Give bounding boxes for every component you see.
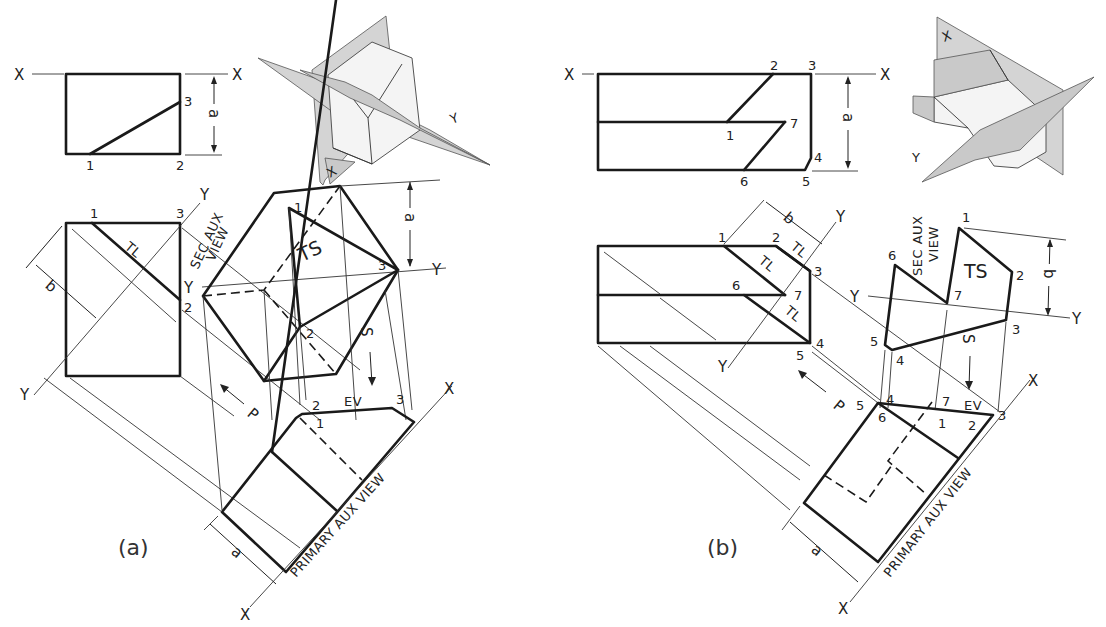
fold-label-y-bottom: Y xyxy=(19,386,30,404)
point-label: 6 xyxy=(878,410,887,425)
direction-label-s: S xyxy=(959,334,977,344)
point-label: 2 xyxy=(176,158,185,173)
pictorial-label-y: Y xyxy=(911,150,920,165)
point-label: 7 xyxy=(954,288,963,303)
point-label: 5 xyxy=(796,348,805,363)
panel-b: Y X X X 2 3 1 7 4 6 5 a xyxy=(564,17,1094,618)
fold-label-x-left: X xyxy=(564,66,574,84)
point-label: 2 xyxy=(772,230,781,245)
point-label: 2 xyxy=(1016,268,1025,283)
fold-label-y-bottom: Y xyxy=(717,358,728,376)
fold-label-y-top: Y xyxy=(199,186,210,204)
point-label: 6 xyxy=(888,248,897,263)
dimension-label-a: a xyxy=(205,109,223,118)
point-label: 1 xyxy=(294,200,303,215)
front-edge-1-3 xyxy=(90,102,180,154)
annotation-tl: TL xyxy=(121,238,144,261)
sec-aux-view-b: SEC AUX VIEW Y Y TS 1 2 3 4 5 6 7 b xyxy=(849,210,1082,412)
fold-label-y-sec-left: Y xyxy=(183,279,194,297)
dimension-label-a: a xyxy=(839,113,857,122)
top-edge-1-2-TL xyxy=(92,223,180,300)
fold-label-y-sec-left: Y xyxy=(849,288,860,306)
point-label: 4 xyxy=(816,336,825,351)
point-label: 2 xyxy=(312,398,321,413)
view-label-primary-aux: PRIMARY AUX VIEW xyxy=(881,465,976,580)
dimension-label-a: a xyxy=(228,542,247,562)
point-label: 2 xyxy=(770,58,779,73)
dimension-label-b: b xyxy=(42,276,61,296)
fold-label-x-left: X xyxy=(14,66,24,84)
fold-label-y-sec-right: Y xyxy=(1071,310,1082,328)
point-label: 4 xyxy=(814,150,823,165)
point-label: 1 xyxy=(962,210,971,225)
point-label: 5 xyxy=(802,174,811,189)
point-label: 1 xyxy=(86,158,95,173)
point-label: 2 xyxy=(968,418,977,433)
dimension-label-b: b xyxy=(780,208,799,228)
fold-label-x-aux-top: X xyxy=(444,380,454,398)
point-label: 1 xyxy=(316,416,325,431)
annotation-tl: TL xyxy=(755,252,778,275)
fold-label-x-right: X xyxy=(232,66,242,84)
front-view-outline xyxy=(66,74,180,154)
pictorial-a: Y X xyxy=(258,16,490,185)
annotation-ts: TS xyxy=(963,260,988,282)
fold-line-y xyxy=(34,203,200,395)
sec-aux-view-a: SEC AUX VIEW Y Y 1 3 2 TS a xyxy=(183,180,446,510)
fold-label-x-aux-bottom: X xyxy=(838,600,848,618)
annotation-ev: EV xyxy=(964,398,982,413)
point-label: 7 xyxy=(942,394,951,409)
point-label: 1 xyxy=(726,128,735,143)
fold-label-x-right: X xyxy=(880,66,890,84)
point-label: 3 xyxy=(396,392,405,407)
point-label: 7 xyxy=(794,288,803,303)
direction-label-p: P xyxy=(244,404,263,424)
point-label: 6 xyxy=(740,174,749,189)
point-label: 2 xyxy=(306,326,315,341)
view-label-sec-aux: SEC AUX xyxy=(910,216,925,277)
direction-label-p: P xyxy=(830,396,849,416)
primary-aux-view-b: X X 5 4 6 7 1 2 3 EV PRIMARY AUX VIEW P … xyxy=(782,370,1038,618)
point-label: 3 xyxy=(378,258,387,273)
fold-label-y-sec-right: Y xyxy=(431,261,442,279)
dimension-label-b: b xyxy=(1040,269,1058,279)
fold-label-x-aux-bottom: X xyxy=(240,606,250,624)
point-label: 4 xyxy=(896,353,905,368)
point-label: 3 xyxy=(176,206,185,221)
view-label-primary-aux: PRIMARY AUX VIEW xyxy=(287,470,388,580)
figure-canvas: Y X X X 1 2 3 a Y Y 1 xyxy=(0,0,1106,627)
point-label: 7 xyxy=(790,116,799,131)
point-label: 1 xyxy=(90,206,99,221)
point-label: 3 xyxy=(808,58,817,73)
point-label: 4 xyxy=(886,392,895,407)
point-label: 5 xyxy=(870,334,879,349)
point-label: 6 xyxy=(732,278,741,293)
panel-caption-b: (b) xyxy=(707,535,738,560)
point-label: 3 xyxy=(998,408,1007,423)
fold-line-y-sec xyxy=(868,296,1070,318)
view-label-view: VIEW xyxy=(926,226,941,262)
annotation-ev: EV xyxy=(344,394,362,409)
dimension-a-primary xyxy=(790,522,858,582)
sec-aux-outline xyxy=(885,228,1012,350)
panel-a: Y X X X 1 2 3 a Y Y 1 xyxy=(14,0,490,624)
panel-caption-a: (a) xyxy=(118,535,149,560)
point-label: 5 xyxy=(856,398,865,413)
fold-label-y-top: Y xyxy=(835,208,846,226)
fold-line-y-sec xyxy=(202,268,446,287)
fold-label-x-aux-top: X xyxy=(1028,372,1038,390)
dimension-label-a: a xyxy=(808,540,827,560)
pictorial-b: Y X xyxy=(911,17,1094,182)
point-label: 3 xyxy=(1012,322,1021,337)
pictorial-label-y: Y xyxy=(447,110,461,127)
dimension-label-a: a xyxy=(401,213,419,222)
direction-label-s: S xyxy=(357,327,375,337)
annotation-tl: TL xyxy=(781,302,804,325)
point-label: 3 xyxy=(184,94,193,109)
point-label: 1 xyxy=(938,416,947,431)
front-view-a: X X 1 2 3 a xyxy=(14,66,242,173)
fold-line-x-aux xyxy=(250,386,452,607)
front-view-b: X X 2 3 1 7 4 6 5 a xyxy=(564,58,890,189)
